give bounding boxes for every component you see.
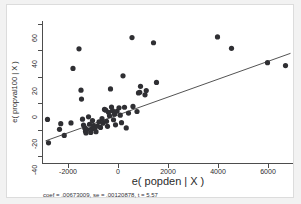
data-point (144, 88, 149, 93)
data-point (79, 96, 84, 101)
y-axis-title-label: e( propval100 | X ) (9, 61, 21, 123)
data-point (99, 116, 104, 121)
data-point (113, 122, 118, 127)
data-point (57, 127, 62, 132)
data-point (215, 34, 220, 39)
data-point (80, 117, 85, 122)
data-point (93, 129, 98, 134)
data-point (151, 40, 156, 45)
added-variable-plot-figure: e( propval100 | X ) -40-200204060 -20000… (0, 0, 301, 204)
data-point (86, 114, 91, 119)
data-point (118, 113, 123, 118)
plot-region (43, 21, 293, 163)
data-point (78, 88, 83, 93)
data-point (62, 133, 67, 138)
y-axis-tick-label: 0 (31, 103, 39, 131)
data-point (129, 35, 134, 40)
data-point (111, 117, 116, 122)
plot-card: e( propval100 | X ) -40-200204060 -20000… (6, 4, 294, 198)
y-axis-tick-label: -40 (31, 156, 39, 184)
data-point (76, 46, 81, 51)
data-point (265, 60, 270, 65)
data-point (58, 121, 63, 126)
data-point (104, 119, 109, 124)
data-point (68, 120, 73, 125)
data-point (116, 105, 121, 110)
y-axis-tick-label: 40 (31, 50, 39, 78)
y-axis-tick-label: 60 (31, 24, 39, 52)
data-point (119, 120, 124, 125)
data-point (137, 90, 142, 95)
data-point (124, 125, 129, 130)
data-point (120, 73, 125, 78)
data-point (283, 63, 288, 68)
data-point (138, 84, 143, 89)
data-point (126, 111, 131, 116)
data-point (46, 140, 51, 145)
y-axis-tick-label: -20 (31, 130, 39, 158)
data-point (108, 86, 113, 91)
data-point (70, 66, 75, 71)
data-point (105, 124, 110, 129)
data-point (134, 109, 139, 114)
data-point (90, 118, 95, 123)
data-point (154, 80, 159, 85)
regression-statistics-caption: coef = .00673009, se = .00120878, t = 5.… (43, 191, 158, 199)
data-point (122, 105, 127, 110)
x-axis-title: e( popden | X ) (43, 175, 293, 187)
data-point-group (45, 34, 288, 145)
data-point (130, 104, 135, 109)
y-axis-tick-label: 20 (31, 77, 39, 105)
scatter-canvas (43, 21, 293, 163)
data-point (45, 117, 50, 122)
data-point (229, 46, 234, 51)
y-axis-title: e( propval100 | X ) (9, 37, 21, 147)
data-point (107, 113, 112, 118)
